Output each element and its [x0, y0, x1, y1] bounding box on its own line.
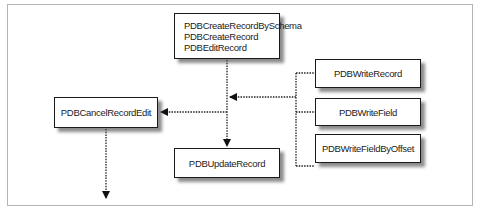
node-cancel-record-edit: PDBCancelRecordEdit — [54, 97, 158, 128]
node-label: PDBWriteFieldByOffset — [322, 143, 414, 154]
node-label: PDBEditRecord — [184, 42, 247, 53]
node-update-record: PDBUpdateRecord — [174, 148, 280, 178]
node-create-records: PDBCreateRecordBySchema PDBCreateRecord … — [174, 13, 280, 59]
node-write-field-by-offset: PDBWriteFieldByOffset — [315, 134, 421, 163]
node-label: PDBCreateRecord — [184, 31, 258, 42]
node-write-record: PDBWriteRecord — [315, 59, 421, 88]
node-label: PDBWriteField — [339, 107, 397, 118]
node-label: PDBCancelRecordEdit — [61, 107, 151, 118]
node-label: PDBCreateRecordBySchema — [184, 20, 302, 31]
node-write-field: PDBWriteField — [315, 98, 421, 126]
node-label: PDBWriteRecord — [334, 68, 402, 79]
node-label: PDBUpdateRecord — [189, 158, 265, 169]
